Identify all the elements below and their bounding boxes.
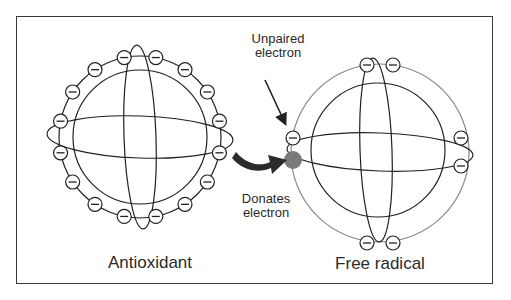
antioxidant-electrons [54,51,227,224]
electron-minus-icon [117,51,131,65]
antioxidant-nucleus-sphere [73,70,207,204]
electron-minus-icon [360,236,374,250]
unpaired-electron-arrow [265,80,285,123]
electron-minus-icon [454,159,468,173]
electron-minus-icon [54,146,68,160]
electron-minus-icon [212,114,226,128]
electron-minus-icon [149,209,163,223]
free-radical-electrons [286,58,468,250]
donates-label-line1: Donates [226,192,306,206]
electron-minus-icon [178,197,192,211]
antioxidant-atom [46,44,233,229]
donation-arrow-icon [232,152,287,174]
unpaired-electron-label: Unpaired electron [238,32,318,61]
antioxidant-electron-ring [59,56,221,218]
free-radical-label: Free radical [315,255,445,274]
electron-minus-icon [386,236,400,250]
electron-minus-icon [54,114,68,128]
unpaired-label-line2: electron [238,46,318,60]
free-radical-electron-ring [291,64,469,242]
electron-minus-icon [212,146,226,160]
electron-minus-icon [200,175,214,189]
electron-minus-icon [88,63,102,77]
antioxidant-label: Antioxidant [80,254,220,273]
electron-minus-icon [66,85,80,99]
electron-minus-icon [66,175,80,189]
electron-minus-icon [178,63,192,77]
electron-minus-icon [88,197,102,211]
electron-minus-icon [200,85,214,99]
electron-minus-icon [117,209,131,223]
antioxidant-horizontal-orbit [46,113,233,161]
electron-minus-icon [454,131,468,145]
antioxidant-vertical-orbit [121,44,159,229]
electron-minus-icon [360,58,374,72]
electron-minus-icon [386,58,400,72]
free-radical-nucleus-sphere [311,83,445,217]
electron-minus-icon [149,51,163,65]
electron-minus-icon [286,131,300,145]
unpaired-label-line1: Unpaired [238,32,318,46]
donates-label-line2: electron [226,206,306,220]
free-radical-atom [284,57,474,250]
donates-electron-label: Donates electron [226,192,306,221]
